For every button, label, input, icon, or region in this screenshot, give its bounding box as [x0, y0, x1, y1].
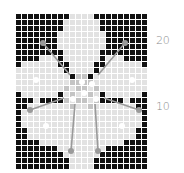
- stitch-cell: [70, 62, 75, 67]
- knitting-chart: [0, 0, 184, 173]
- stitch-cell: [118, 164, 123, 169]
- stitch-cell: [136, 50, 141, 55]
- stitch-cell: [64, 56, 69, 61]
- stitch-cell: [82, 134, 87, 139]
- stitch-cell: [112, 158, 117, 163]
- stitch-cell: [52, 32, 57, 37]
- stitch-cell: [142, 122, 147, 127]
- stitch-cell: [142, 158, 147, 163]
- stitch-cell: [16, 92, 21, 97]
- stitch-cell: [34, 50, 39, 55]
- stitch-cell: [142, 32, 147, 37]
- stitch-cell: [40, 50, 45, 55]
- stitch-cell: [130, 158, 135, 163]
- stitch-cell: [64, 122, 69, 127]
- stitch-cell: [16, 62, 21, 67]
- stitch-cell: [76, 134, 81, 139]
- stitch-cell: [142, 98, 147, 103]
- bead-dot: [119, 123, 125, 129]
- stitch-cell: [106, 20, 111, 25]
- stitch-cell: [118, 110, 123, 115]
- stitch-cell: [106, 116, 111, 121]
- stitch-cell: [52, 26, 57, 31]
- stitch-cell: [112, 122, 117, 127]
- stitch-cell: [118, 62, 123, 67]
- stitch-cell: [52, 158, 57, 163]
- stitch-cell: [142, 146, 147, 151]
- stitch-cell: [58, 74, 63, 79]
- stitch-cell: [124, 14, 129, 19]
- stitch-cell: [16, 50, 21, 55]
- stitch-cell: [34, 86, 39, 91]
- stitch-cell: [34, 38, 39, 43]
- stitch-cell: [22, 74, 27, 79]
- stitch-cell: [112, 86, 117, 91]
- stitch-cell: [124, 134, 129, 139]
- stitch-cell: [124, 158, 129, 163]
- stitch-cell: [22, 98, 27, 103]
- stitch-cell: [70, 44, 75, 49]
- stitch-cell: [46, 74, 51, 79]
- stitch-cell: [136, 68, 141, 73]
- stitch-cell: [142, 104, 147, 109]
- stitch-cell: [118, 80, 123, 85]
- stitch-cell: [112, 44, 117, 49]
- stitch-cell: [52, 68, 57, 73]
- stitch-cell: [64, 128, 69, 133]
- stitch-cell: [28, 80, 33, 85]
- stitch-cell: [136, 20, 141, 25]
- stitch-cell: [82, 146, 87, 151]
- stitch-cell: [58, 80, 63, 85]
- stitch-cell: [34, 146, 39, 151]
- stitch-cell: [46, 68, 51, 73]
- stitch-cell: [112, 146, 117, 151]
- stitch-cell: [112, 134, 117, 139]
- stitch-cell: [136, 164, 141, 169]
- stitch-cell: [106, 110, 111, 115]
- stitch-cell: [64, 152, 69, 157]
- stitch-cell: [100, 152, 105, 157]
- stitch-cell: [58, 164, 63, 169]
- stitch-cell: [106, 92, 111, 97]
- stitch-cell: [76, 56, 81, 61]
- stitch-cell: [94, 44, 99, 49]
- stitch-cell: [88, 50, 93, 55]
- stitch-cell: [64, 110, 69, 115]
- stitch-cell: [136, 74, 141, 79]
- stitch-cell: [136, 38, 141, 43]
- stitch-cell: [40, 98, 45, 103]
- stitch-cell: [64, 86, 69, 91]
- stitch-cell: [142, 134, 147, 139]
- stitch-cell: [76, 98, 81, 103]
- stitch-cell: [124, 20, 129, 25]
- stitch-cell: [88, 14, 93, 19]
- stitch-cell: [28, 146, 33, 151]
- stitch-cell: [22, 20, 27, 25]
- stitch-cell: [34, 122, 39, 127]
- stitch-cell: [58, 86, 63, 91]
- stem-end-dot: [136, 107, 142, 113]
- stitch-cell: [52, 110, 57, 115]
- stitch-cell: [82, 14, 87, 19]
- stitch-cell: [40, 158, 45, 163]
- stitch-cell: [16, 44, 21, 49]
- stitch-cell: [112, 62, 117, 67]
- stitch-cell: [58, 92, 63, 97]
- stitch-cell: [82, 32, 87, 37]
- stitch-cell: [136, 122, 141, 127]
- stitch-cell: [82, 152, 87, 157]
- stitch-cell: [100, 20, 105, 25]
- stitch-cell: [136, 56, 141, 61]
- stitch-cell: [94, 68, 99, 73]
- stitch-cell: [16, 110, 21, 115]
- stitch-cell: [22, 116, 27, 121]
- stitch-cell: [70, 56, 75, 61]
- stitch-cell: [88, 116, 93, 121]
- stitch-cell: [28, 50, 33, 55]
- row-label-10: 10: [156, 100, 169, 113]
- stitch-cell: [76, 122, 81, 127]
- stitch-cell: [130, 164, 135, 169]
- stitch-cell: [94, 26, 99, 31]
- stitch-cell: [112, 20, 117, 25]
- stitch-cell: [82, 74, 87, 79]
